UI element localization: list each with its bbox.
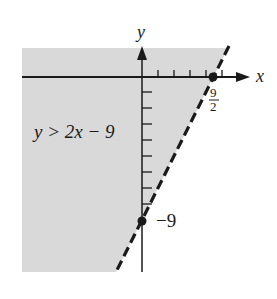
x-axis-arrow-icon: [236, 72, 250, 82]
y-axis-label: y: [135, 22, 145, 42]
shaded-region: [22, 48, 228, 272]
x-axis-label: x: [255, 66, 264, 86]
inequality-graph: x y 9 2 −9 y > 2x − 9: [0, 0, 277, 299]
x-intercept-point: [209, 73, 218, 82]
y-intercept-point: [138, 217, 147, 226]
x-intercept-denominator: 2: [210, 99, 217, 114]
x-intercept-numerator: 9: [210, 85, 217, 100]
inequality-label: y > 2x − 9: [32, 121, 115, 142]
y-intercept-label: −9: [156, 210, 176, 231]
